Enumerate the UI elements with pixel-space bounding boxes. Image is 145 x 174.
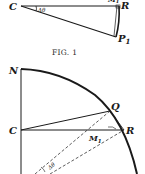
line-c-p1 [21, 6, 116, 37]
line-c-q [21, 111, 110, 130]
label-m1-2: M1 [88, 133, 102, 144]
label-delta-theta-1: Δθ [37, 7, 46, 13]
label-r2: R [125, 125, 134, 136]
diagram-canvas: C R M1 P1 Δθ FIG. 1 N C Q R M1 Δθ [0, 0, 145, 174]
label-c2: C [9, 125, 17, 136]
figure-caption: FIG. 1 [52, 48, 77, 57]
figure-2: N C Q R M1 Δθ [8, 65, 137, 174]
small-angle-mark [108, 127, 116, 129]
figure-1: C R M1 P1 Δθ FIG. 1 [9, 0, 130, 57]
label-r: R [120, 0, 129, 11]
dashed-line-r [50, 130, 124, 174]
label-p1: P1 [117, 33, 130, 46]
label-c: C [9, 1, 17, 12]
arc-circle [21, 69, 137, 174]
label-m1: M1 [107, 0, 119, 4]
label-q: Q [111, 101, 120, 112]
label-delta-theta-2: Δθ [46, 161, 57, 171]
label-n: N [8, 65, 19, 76]
angle-arc-1 [36, 6, 37, 11]
